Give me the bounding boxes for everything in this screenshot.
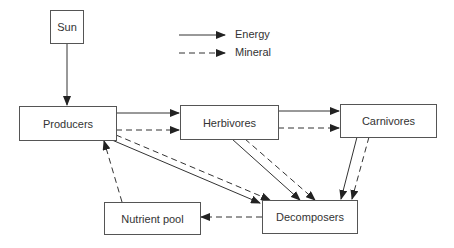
node-nutrient-pool: Nutrient pool xyxy=(104,202,201,235)
node-producers-label: Producers xyxy=(43,118,93,130)
legend-mineral-label: Mineral xyxy=(235,46,271,58)
legend-energy-label: Energy xyxy=(235,28,270,40)
node-decomposers-label: Decomposers xyxy=(276,211,344,223)
node-sun-label: Sun xyxy=(57,21,77,33)
node-herbivores: Herbivores xyxy=(180,105,279,140)
node-herbivores-label: Herbivores xyxy=(203,117,256,129)
node-sun: Sun xyxy=(50,10,84,44)
node-carnivores-label: Carnivores xyxy=(362,115,415,127)
node-producers: Producers xyxy=(19,106,117,141)
node-nutrient-pool-label: Nutrient pool xyxy=(121,213,183,225)
node-decomposers: Decomposers xyxy=(262,200,358,234)
node-carnivores: Carnivores xyxy=(340,104,437,138)
